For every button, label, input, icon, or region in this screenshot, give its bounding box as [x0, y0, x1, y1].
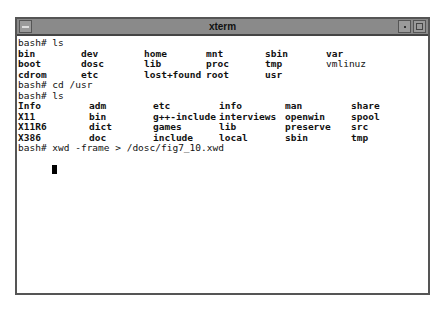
ls-entry: root: [206, 70, 229, 81]
ls-entry: preserve: [285, 122, 331, 133]
ls-entry: sbin: [285, 133, 308, 144]
command-line: bash# cd /usr: [18, 80, 428, 91]
ls-entry: boot: [18, 59, 41, 70]
ls-row: boot dosc lib proc tmp vmlinuz: [18, 59, 428, 70]
minimize-button[interactable]: [398, 20, 411, 33]
ls-entry: man: [285, 101, 302, 112]
ls-entry: usr: [265, 70, 282, 81]
ls-entry: lost+found: [144, 70, 201, 81]
window-title: xterm: [17, 21, 428, 32]
command-line: bash# xwd -frame > /dosc/fig7_10.xwd: [18, 143, 428, 154]
cursor-line: [18, 154, 428, 165]
ls-entry: etc: [153, 101, 170, 112]
maximize-button[interactable]: [413, 20, 426, 33]
ls-entry: X11R6: [18, 122, 47, 133]
ls-entry: dosc: [81, 59, 104, 70]
ls-entry: proc: [206, 59, 229, 70]
ls-entry: info: [219, 101, 242, 112]
text-cursor: [52, 165, 57, 174]
ls-entry: src: [351, 122, 368, 133]
ls-entry: lib: [144, 59, 161, 70]
ls-entry: games: [153, 122, 182, 133]
ls-entry: vmlinuz: [326, 59, 366, 70]
ls-entry: dict: [89, 122, 112, 133]
ls-entry: Info: [18, 101, 41, 112]
ls-entry: tmp: [265, 59, 282, 70]
ls-entry: adm: [89, 101, 106, 112]
ls-entry: tmp: [351, 133, 368, 144]
ls-entry: share: [351, 101, 380, 112]
xterm-window: xterm bash# ls bin dev home mnt sbin var…: [15, 17, 430, 295]
command-line: bash# ls: [18, 38, 428, 49]
ls-entry: lib: [219, 122, 236, 133]
title-bar[interactable]: xterm: [17, 19, 428, 36]
ls-row: Info adm etc info man share: [18, 101, 428, 112]
ls-row: X11R6 dict games lib preserve src: [18, 122, 428, 133]
terminal-area[interactable]: bash# ls bin dev home mnt sbin var boot …: [18, 38, 428, 293]
